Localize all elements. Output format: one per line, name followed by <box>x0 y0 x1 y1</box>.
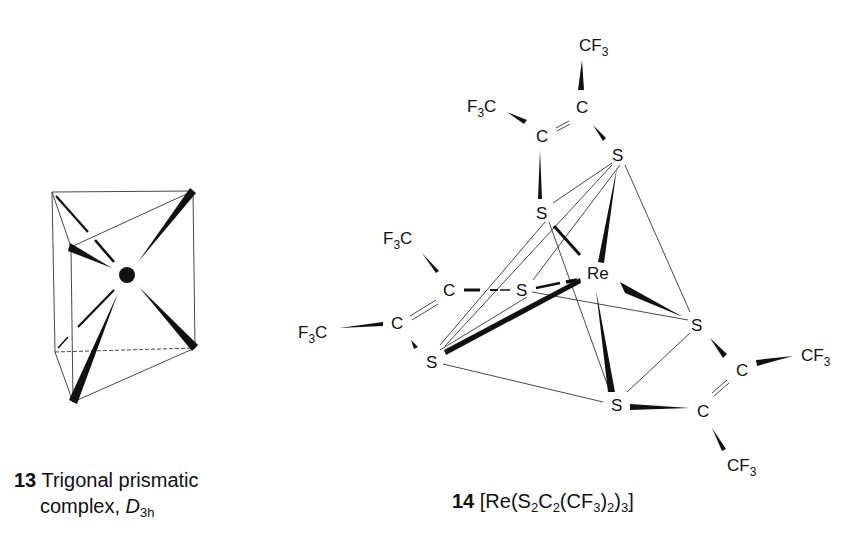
atom-label-c: C <box>576 98 588 117</box>
caption-13: 13 Trigonal prismatic complex, D3h <box>14 467 199 526</box>
caption-13-text: complex, <box>40 495 120 517</box>
metal-ligand-bonds <box>56 188 198 404</box>
caption-13-line1: 13 Trigonal prismatic <box>14 467 199 493</box>
atom-label-cf3-bottom: CF3 <box>727 456 757 479</box>
atom-label-s: S <box>611 396 622 415</box>
atom-label-c: C <box>536 127 548 146</box>
atom-label-s: S <box>691 316 702 335</box>
atom-label-s: S <box>536 204 547 223</box>
re-s-bonds <box>444 167 683 392</box>
atom-label-s: S <box>426 353 437 372</box>
caption-13-title: Trigonal prismatic <box>41 469 198 491</box>
atom-label-f3c-left-lower: F3C <box>298 323 327 346</box>
caption-14: 14 [Re(S2C2(CF3)2)3] <box>452 488 634 521</box>
symmetry-symbol: D <box>126 495 140 517</box>
atom-label-f3c-top: F3C <box>467 97 496 120</box>
atom-label-s: S <box>516 281 527 300</box>
figure-number-13: 13 <box>14 469 36 491</box>
atom-label-s: S <box>612 146 623 165</box>
caption-13-line2: complex, D3h <box>14 493 199 526</box>
atom-label-c: C <box>443 281 455 300</box>
re-complex-diagram: CF3 F3C C C S S Re F3C C S C F3C S S C C… <box>298 36 831 479</box>
atom-label-cf3-top: CF3 <box>579 36 609 59</box>
atom-label-c: C <box>736 361 748 380</box>
atom-label-c: C <box>391 314 403 333</box>
s-s-prism-edges <box>440 163 690 402</box>
figure-canvas: CF3 F3C C C S S Re F3C C S C F3C S S C C… <box>0 0 841 547</box>
symmetry-subscript: 3h <box>140 505 154 520</box>
formula: [Re(S2C2(CF3)2)3] <box>480 490 634 512</box>
atom-label-c: C <box>697 402 709 421</box>
atom-label-f3c-left-upper: F3C <box>383 229 412 252</box>
central-metal-atom <box>119 267 135 283</box>
atom-label-cf3-right: CF3 <box>801 346 831 369</box>
ligand-left <box>339 253 510 349</box>
prism-edges <box>52 191 195 402</box>
ligand-top <box>507 60 606 199</box>
ligand-right <box>630 338 793 451</box>
atom-labels: CF3 F3C C C S S Re F3C C S C F3C S S C C… <box>298 36 831 479</box>
trigonal-prism-diagram <box>52 188 198 404</box>
atom-label-re: Re <box>587 264 609 283</box>
figure-number-14: 14 <box>452 490 474 512</box>
